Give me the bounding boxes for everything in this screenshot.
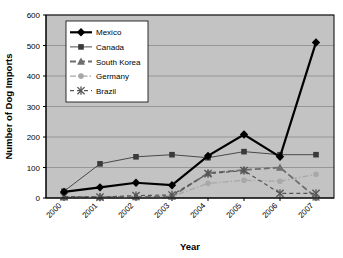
data-point-marker-germany xyxy=(78,73,84,79)
y-tick-label: 200 xyxy=(27,133,41,142)
x-tick-label: 2005 xyxy=(224,201,243,220)
legend-label-germany: Germany xyxy=(96,72,129,81)
data-point-marker-canada xyxy=(241,149,247,155)
y-tick-label: 500 xyxy=(27,42,41,51)
y-tick-label: 100 xyxy=(27,164,41,173)
y-tick-label: 600 xyxy=(27,11,41,20)
data-point-marker-canada xyxy=(97,161,103,167)
data-point-marker-germany xyxy=(277,178,283,184)
x-tick-label: 2006 xyxy=(260,201,279,220)
x-tick-label: 2003 xyxy=(152,201,171,220)
data-point-marker-canada xyxy=(133,154,139,160)
x-tick-label: 2001 xyxy=(80,201,99,220)
y-tick-label: 300 xyxy=(27,103,41,112)
legend-marker-canada xyxy=(78,44,84,50)
y-tick-labels: 0100200300400500600 xyxy=(27,11,41,203)
chart-canvas: 0100200300400500600200020012002200320042… xyxy=(0,0,343,258)
x-tick-label: 2007 xyxy=(296,201,315,220)
x-tick-labels: 20002001200220032004200520062007 xyxy=(44,198,316,220)
x-tick-label: 2004 xyxy=(188,201,207,220)
dog-imports-line-chart: 0100200300400500600200020012002200320042… xyxy=(0,0,343,258)
data-point-marker-canada xyxy=(313,152,319,158)
x-axis-title: Year xyxy=(180,241,200,252)
legend-label-brazil: Brazil xyxy=(96,87,116,96)
y-axis-title: Number of Dog Imports xyxy=(3,53,14,159)
legend-marker-germany xyxy=(78,73,84,79)
legend-label-canada: Canada xyxy=(96,43,125,52)
data-point-marker-germany xyxy=(241,178,247,184)
data-point-marker-canada xyxy=(169,152,175,158)
legend-label-mexico: Mexico xyxy=(96,28,122,37)
data-point-marker-germany xyxy=(313,171,319,177)
data-point-marker-canada xyxy=(78,44,84,50)
y-tick-label: 400 xyxy=(27,72,41,81)
x-tick-label: 2002 xyxy=(116,201,135,220)
y-tick-label: 0 xyxy=(36,194,41,203)
legend-label-south-korea: South Korea xyxy=(96,58,141,67)
chart-legend: MexicoCanadaSouth KoreaGermanyBrazil xyxy=(66,21,148,102)
data-point-marker-germany xyxy=(205,181,211,187)
x-tick-label: 2000 xyxy=(44,201,63,220)
